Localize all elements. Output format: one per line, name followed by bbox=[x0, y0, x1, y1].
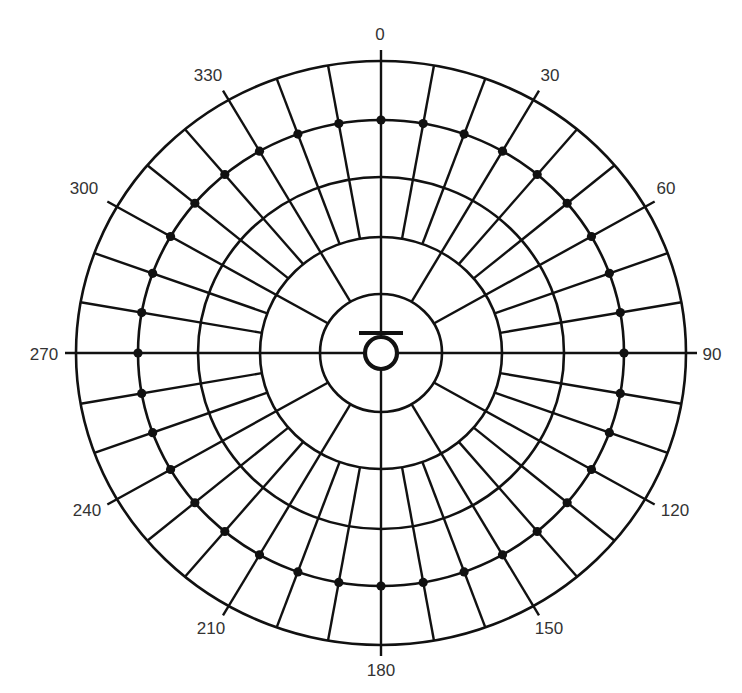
dot-icon bbox=[137, 308, 146, 317]
major-spoke-300 bbox=[107, 202, 328, 324]
angle-label-150: 150 bbox=[535, 619, 563, 638]
dot-icon bbox=[498, 550, 507, 559]
minor-spoke-250 bbox=[94, 393, 267, 453]
minor-spoke-10 bbox=[402, 65, 434, 238]
dot-icon bbox=[498, 147, 507, 156]
dot-icon bbox=[166, 465, 175, 474]
major-spoke-120 bbox=[434, 383, 655, 505]
dot-icon bbox=[587, 465, 596, 474]
angle-label-120: 120 bbox=[661, 501, 689, 520]
minor-spoke-280 bbox=[81, 302, 262, 333]
dot-icon bbox=[190, 199, 199, 208]
minor-spoke-350 bbox=[328, 65, 360, 238]
minor-spoke-260 bbox=[81, 373, 262, 404]
minor-spoke-340 bbox=[277, 79, 340, 244]
dot-icon bbox=[533, 527, 542, 536]
angle-label-240: 240 bbox=[73, 501, 101, 520]
polar-diagram: 0306090120150180210240270300330 bbox=[0, 0, 742, 693]
dot-icon bbox=[563, 498, 572, 507]
dot-icon bbox=[293, 567, 302, 576]
minor-spoke-290 bbox=[94, 253, 267, 313]
dot-icon bbox=[133, 348, 142, 357]
dot-icon bbox=[334, 119, 343, 128]
angle-label-180: 180 bbox=[367, 661, 395, 680]
dot-icon bbox=[619, 348, 628, 357]
dot-icon bbox=[376, 115, 385, 124]
angle-label-90: 90 bbox=[703, 345, 722, 364]
major-spoke-60 bbox=[434, 202, 655, 324]
angle-label-270: 270 bbox=[30, 345, 58, 364]
dot-icon bbox=[376, 581, 385, 590]
dot-icon bbox=[166, 232, 175, 241]
dot-icon bbox=[148, 269, 157, 278]
dot-icon bbox=[605, 428, 614, 437]
dot-icon bbox=[148, 428, 157, 437]
polar-grid-canvas: 0306090120150180210240270300330 bbox=[0, 0, 742, 693]
dot-icon bbox=[419, 119, 428, 128]
angle-label-300: 300 bbox=[70, 179, 98, 198]
minor-spoke-80 bbox=[500, 302, 681, 333]
minor-spoke-110 bbox=[495, 393, 668, 453]
angle-label-0: 0 bbox=[375, 25, 384, 44]
minor-spoke-100 bbox=[500, 373, 681, 404]
angle-label-210: 210 bbox=[197, 619, 225, 638]
minor-spoke-200 bbox=[277, 462, 340, 627]
dot-icon bbox=[137, 389, 146, 398]
hub-symbol-icon bbox=[359, 333, 403, 369]
major-spoke-240 bbox=[107, 383, 328, 505]
dot-icon bbox=[293, 129, 302, 138]
dot-icon bbox=[533, 170, 542, 179]
dot-icon bbox=[220, 527, 229, 536]
dot-icon bbox=[419, 578, 428, 587]
minor-spoke-70 bbox=[495, 253, 668, 313]
minor-spoke-20 bbox=[422, 79, 485, 244]
angle-label-60: 60 bbox=[657, 179, 676, 198]
minor-spoke-170 bbox=[402, 467, 434, 640]
dot-icon bbox=[563, 199, 572, 208]
hub-circle-icon bbox=[365, 337, 397, 369]
dot-icon bbox=[616, 389, 625, 398]
dot-icon bbox=[334, 578, 343, 587]
angle-label-30: 30 bbox=[541, 66, 560, 85]
dot-icon bbox=[616, 308, 625, 317]
dot-icon bbox=[220, 170, 229, 179]
dot-icon bbox=[255, 550, 264, 559]
dot-icon bbox=[190, 498, 199, 507]
dot-icon bbox=[255, 147, 264, 156]
dot-icon bbox=[460, 129, 469, 138]
dot-icon bbox=[587, 232, 596, 241]
minor-spoke-190 bbox=[328, 467, 360, 640]
dot-icon bbox=[460, 567, 469, 576]
dot-icon bbox=[605, 269, 614, 278]
minor-spoke-160 bbox=[422, 462, 485, 627]
angle-label-330: 330 bbox=[194, 66, 222, 85]
